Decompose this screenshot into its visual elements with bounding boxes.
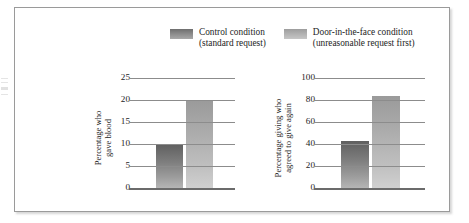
axis-tick-mark <box>314 122 319 123</box>
bar-door-in-the-face <box>372 96 400 188</box>
x-axis-baseline <box>129 188 235 190</box>
gridline <box>319 166 425 167</box>
axis-tick-mark <box>129 122 134 123</box>
chart-panel-give-again: Percentage giving who agreed to give aga… <box>253 78 431 198</box>
axis-tick-mark <box>129 100 134 101</box>
legend-label-ditf-line2: (unreasonable request first) <box>313 38 415 49</box>
gridline <box>134 144 235 145</box>
gridline <box>134 78 235 79</box>
x-axis-baseline <box>314 188 425 190</box>
bar-group-give-again <box>319 78 425 188</box>
y-axis-title-gave-blood-line1: Percentage who <box>93 111 103 166</box>
gridline <box>134 166 235 167</box>
figure-frame: Control condition (standard request) Doo… <box>14 7 450 212</box>
y-axis-ticks-give-again: 020406080100 <box>293 78 315 198</box>
gridline <box>319 78 425 79</box>
gridline <box>319 100 425 101</box>
axis-tick-mark <box>314 100 319 101</box>
legend-swatch-door-in-the-face-icon <box>284 29 307 39</box>
legend-swatch-control-icon <box>170 29 193 39</box>
y-axis-ticks-gave-blood: 0510152025 <box>108 78 130 198</box>
axis-tick-mark <box>314 144 319 145</box>
bar-control <box>341 141 369 188</box>
plot-area-give-again <box>319 78 425 190</box>
y-axis-title-give-again-line2: agreed to give again <box>283 99 293 178</box>
gridline <box>134 122 235 123</box>
legend-item-door-in-the-face: Door-in-the-face condition (unreasonable… <box>284 27 415 50</box>
gridline <box>319 144 425 145</box>
axis-tick-mark <box>314 166 319 167</box>
legend-label-control: Control condition (standard request) <box>199 27 266 50</box>
chart-legend: Control condition (standard request) Doo… <box>170 27 415 50</box>
page-margin-artifact <box>1 78 8 100</box>
axis-tick-mark <box>314 78 319 79</box>
y-axis-tick-label: 100 <box>301 73 315 82</box>
legend-label-control-line1: Control condition <box>199 27 265 37</box>
bar-group-gave-blood <box>134 78 235 188</box>
legend-label-door-in-the-face: Door-in-the-face condition (unreasonable… <box>313 27 415 50</box>
y-axis-title-give-again-line1: Percentage giving who <box>273 99 283 178</box>
legend-label-ditf-line1: Door-in-the-face condition <box>313 27 413 37</box>
chart-panel-gave-blood: Percentage who gave blood 0510152025 <box>70 78 240 198</box>
gridline <box>134 100 235 101</box>
axis-tick-mark <box>129 144 134 145</box>
legend-item-control: Control condition (standard request) <box>170 27 266 50</box>
figure-root: Control condition (standard request) Doo… <box>0 0 469 223</box>
axis-tick-mark <box>129 78 134 79</box>
gridline <box>319 122 425 123</box>
axis-tick-mark <box>129 166 134 167</box>
plot-area-gave-blood <box>134 78 235 190</box>
legend-label-control-line2: (standard request) <box>199 38 266 49</box>
